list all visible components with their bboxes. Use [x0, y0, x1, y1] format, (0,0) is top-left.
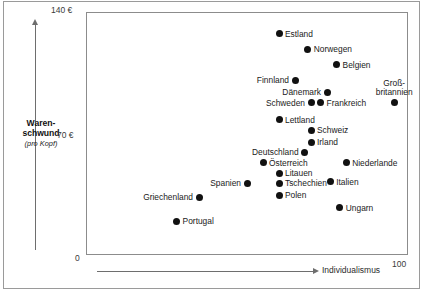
- x-axis-arrow-line: [97, 271, 315, 272]
- plot-area: EstlandNorwegenBelgienFinnlandDänemarkGr…: [86, 12, 408, 255]
- data-point: [276, 170, 283, 177]
- data-point-label: Österreich: [269, 158, 308, 167]
- data-point-label: Polen: [285, 191, 306, 200]
- data-point-label: Lettland: [285, 115, 315, 124]
- data-point: [391, 99, 398, 106]
- data-point-label: Ungarn: [346, 203, 373, 212]
- data-point-label: Irland: [317, 138, 338, 147]
- data-point: [276, 192, 283, 199]
- data-point-label: Finnland: [257, 76, 289, 85]
- data-point: [276, 30, 283, 37]
- data-point: [333, 61, 340, 68]
- x-axis-tick-100: 100: [392, 259, 406, 269]
- data-point-label: Frankreich: [327, 98, 367, 107]
- y-axis-tick-0: 0: [75, 253, 80, 263]
- data-point: [276, 116, 283, 123]
- data-point: [276, 180, 283, 187]
- data-point: [308, 127, 315, 134]
- data-point: [301, 149, 308, 156]
- data-point-label: Italien: [336, 177, 358, 186]
- data-point-label: Belgien: [343, 60, 371, 69]
- data-point-label: Tschechien: [285, 179, 327, 188]
- scatter-chart-figure: Waren- schwund (pro Kopf) 140 € 70 € 0 E…: [0, 0, 423, 296]
- data-point: [343, 159, 350, 166]
- data-point: [304, 46, 311, 53]
- data-point: [173, 218, 180, 225]
- data-point: [196, 194, 203, 201]
- x-axis-title: Individualismus: [322, 265, 380, 275]
- data-point: [260, 159, 267, 166]
- data-point: [244, 180, 251, 187]
- y-axis-title-line1: Waren-: [6, 118, 76, 128]
- data-point-label: Norwegen: [314, 45, 352, 54]
- y-axis-tick-70: 70 €: [57, 130, 74, 140]
- data-point: [324, 89, 331, 96]
- data-point-label: Griechenland: [143, 193, 193, 202]
- data-point: [292, 77, 299, 84]
- data-point-label: Niederlande: [352, 158, 397, 167]
- data-point: [327, 178, 334, 185]
- data-point: [317, 99, 324, 106]
- data-point: [308, 139, 315, 146]
- data-point: [336, 204, 343, 211]
- data-point-label: Groß-britannien: [376, 79, 413, 97]
- data-point-label: Schweiz: [317, 126, 348, 135]
- data-point-label: Schweden: [266, 98, 305, 107]
- data-point-label: Estland: [285, 29, 313, 38]
- data-point-label: Dänemark: [282, 88, 321, 97]
- y-axis-tick-140: 140 €: [51, 5, 72, 15]
- data-point-label: Spanien: [210, 179, 241, 188]
- data-point: [308, 99, 315, 106]
- data-point-label: Portugal: [183, 217, 214, 226]
- x-axis-arrow-head-icon: [313, 268, 319, 274]
- data-point-label: Deutschland: [252, 148, 299, 157]
- data-point-label: Litauen: [285, 169, 312, 178]
- y-axis-title-sub: (pro Kopf): [6, 139, 76, 149]
